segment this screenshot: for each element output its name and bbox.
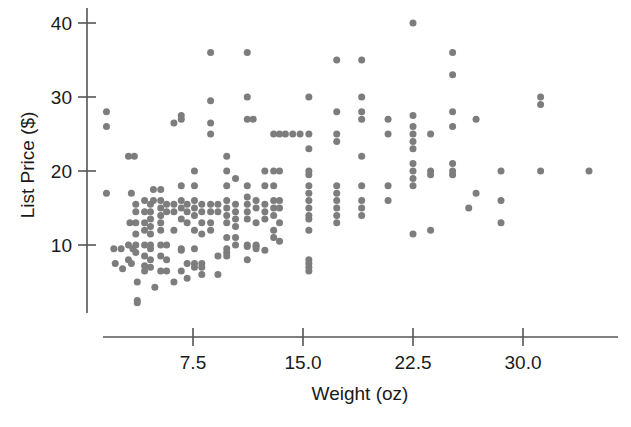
data-point [449,160,456,167]
data-point [147,230,154,237]
data-point [465,205,472,212]
data-point [358,108,365,115]
data-point [191,182,198,189]
data-point [473,190,480,197]
data-point [178,182,185,189]
data-point [103,190,110,197]
data-point [427,227,434,234]
data-point [191,197,198,204]
data-point [223,234,230,241]
data-point [305,171,312,178]
data-point [305,190,312,197]
data-point [184,260,191,267]
data-point [333,108,340,115]
data-point [147,216,154,223]
data-point [537,168,544,175]
data-point [250,116,257,123]
data-point [498,168,505,175]
data-point [232,242,239,249]
data-point [305,227,312,234]
data-point [178,267,185,274]
y-tick-label-30: 30 [51,87,72,108]
data-point [191,168,198,175]
data-point [449,108,456,115]
data-point [147,245,154,252]
data-point [449,49,456,56]
data-point [178,116,185,123]
data-point [244,208,251,215]
data-point [305,145,312,152]
data-point [170,279,177,286]
data-point [132,208,139,215]
data-point [270,212,277,219]
data-point [449,71,456,78]
data-point [141,267,148,274]
data-point [178,247,185,254]
data-point [244,201,251,208]
data-point [131,153,138,160]
data-point [198,271,205,278]
data-point [163,201,170,208]
data-point [157,186,164,193]
data-point [427,131,434,138]
data-point [333,205,340,212]
data-point [358,94,365,101]
data-point [214,271,221,278]
y-axis-ticks: 10203040 [51,13,96,256]
data-point [244,216,251,223]
data-point [128,190,135,197]
data-point [586,168,593,175]
data-point [163,242,170,249]
x-tick-label-30.0: 30.0 [505,352,542,373]
data-points [103,20,593,307]
data-point [141,197,148,204]
data-point [157,219,164,226]
data-point [163,267,170,274]
data-point [297,131,304,138]
data-point [170,208,177,215]
data-point [282,131,289,138]
data-point [261,201,268,208]
data-point [103,108,110,115]
data-point [358,57,365,64]
data-point [157,227,164,234]
data-point [132,230,139,237]
data-point [253,197,260,204]
data-point [276,197,283,204]
x-axis-ticks: 7.515.022.530.0 [180,328,542,373]
data-point [449,123,456,130]
data-point [410,131,417,138]
data-point [410,20,417,27]
data-point [270,227,277,234]
data-point [128,260,135,267]
data-point [178,205,185,212]
data-point [232,234,239,241]
data-point [385,116,392,123]
data-point [410,160,417,167]
data-point [150,197,157,204]
data-point [223,168,230,175]
data-point [427,171,434,178]
data-point [223,253,230,260]
data-point [191,245,198,252]
data-point [270,234,277,241]
y-tick-label-40: 40 [51,13,72,34]
x-tick-label-7.5: 7.5 [180,352,206,373]
data-point [244,49,251,56]
data-point [132,219,139,226]
data-point [232,223,239,230]
data-point [147,256,154,263]
data-point [410,138,417,145]
data-point [410,112,417,119]
data-point [198,264,205,271]
data-point [305,182,312,189]
data-point [253,205,260,212]
data-point [261,208,268,215]
data-point [207,49,214,56]
data-point [333,219,340,226]
data-point [305,216,312,223]
data-point [276,205,283,212]
data-point [207,97,214,104]
data-point [385,182,392,189]
data-point [151,284,158,291]
